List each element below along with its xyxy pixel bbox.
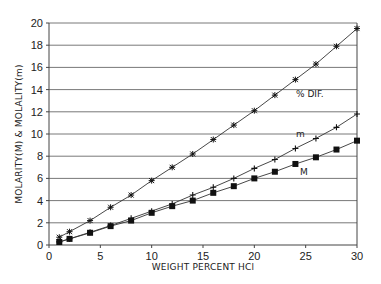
square-marker	[354, 138, 360, 144]
label-molality: m	[296, 129, 305, 139]
y-axis-label: MOLARITY(M) & MOLALITY(m)	[14, 64, 24, 203]
asterisk-marker	[210, 137, 216, 143]
plus-marker	[333, 124, 339, 130]
y-tick-label: 4	[37, 195, 43, 207]
y-tick-label: 12	[31, 106, 43, 118]
asterisk-marker	[87, 218, 93, 224]
series-plus	[56, 111, 360, 245]
square-marker	[190, 198, 196, 204]
square-marker	[272, 169, 278, 175]
square-marker	[87, 230, 93, 236]
series-asterisk	[56, 26, 360, 241]
plus-marker	[272, 157, 278, 163]
plus-marker	[292, 145, 298, 151]
x-tick-label: 30	[351, 250, 363, 262]
label-percent-dif: % DIF.	[296, 89, 324, 99]
x-tick-label: 20	[248, 250, 260, 262]
square-marker	[292, 161, 298, 167]
square-marker	[169, 203, 175, 209]
y-tick-label: 10	[31, 128, 43, 140]
y-tick-label: 14	[31, 84, 43, 96]
square-marker	[251, 175, 257, 181]
x-axis-label: WEIGHT PERCENT HCl	[152, 262, 254, 272]
asterisk-marker	[108, 204, 114, 210]
label-molarity: M	[300, 167, 308, 177]
y-tick-label: 8	[37, 150, 43, 162]
series-square	[56, 138, 360, 245]
chart: 02468101214161820051015202530 WEIGHT PER…	[0, 0, 381, 284]
asterisk-marker	[272, 92, 278, 98]
y-tick-label: 18	[31, 39, 43, 51]
x-tick-label: 15	[197, 250, 209, 262]
axes	[46, 23, 357, 248]
asterisk-marker	[67, 229, 73, 235]
square-marker	[333, 147, 339, 153]
plus-marker	[251, 165, 257, 171]
asterisk-marker	[169, 164, 175, 170]
asterisk-marker	[190, 151, 196, 157]
x-tick-label: 10	[146, 250, 158, 262]
square-marker	[56, 239, 62, 245]
square-marker	[128, 218, 134, 224]
asterisk-marker	[333, 43, 339, 49]
y-tick-label: 0	[37, 239, 43, 251]
data-series	[56, 26, 360, 245]
square-marker	[67, 236, 73, 242]
gridlines	[49, 23, 357, 223]
asterisk-marker	[231, 122, 237, 128]
asterisk-marker	[313, 61, 319, 67]
asterisk-marker	[292, 77, 298, 83]
plus-marker	[313, 135, 319, 141]
asterisk-marker	[149, 178, 155, 184]
y-tick-label: 20	[31, 17, 43, 29]
square-marker	[313, 154, 319, 160]
y-tick-label: 2	[37, 217, 43, 229]
x-tick-label: 0	[46, 250, 52, 262]
y-tick-label: 16	[31, 61, 43, 73]
square-marker	[149, 210, 155, 216]
y-tick-label: 6	[37, 172, 43, 184]
square-marker	[108, 223, 114, 229]
asterisk-marker	[128, 192, 134, 198]
square-marker	[231, 183, 237, 189]
asterisk-marker	[251, 108, 257, 114]
plus-marker	[190, 192, 196, 198]
square-marker	[210, 190, 216, 196]
x-tick-label: 25	[300, 250, 312, 262]
asterisk-marker	[354, 26, 360, 32]
plus-marker	[231, 175, 237, 181]
x-tick-label: 5	[97, 250, 103, 262]
plus-marker	[210, 184, 216, 190]
